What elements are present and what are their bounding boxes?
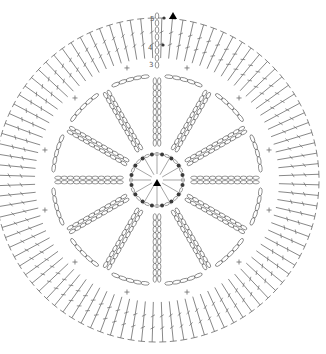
single-crochet-stitch (237, 95, 242, 100)
double-crochet-stitch (169, 301, 177, 341)
double-crochet-stitch (37, 264, 69, 294)
slip-stitch-dot (169, 200, 173, 204)
single-crochet-stitch (42, 208, 47, 213)
chain-arc (51, 134, 64, 172)
double-crochet-stitch (274, 129, 313, 144)
double-crochet-stitch (271, 119, 310, 136)
double-crochet-stitch (0, 172, 35, 179)
double-crochet-stitch (23, 83, 58, 109)
single-crochet-stitch (185, 290, 190, 295)
start-triangle-icon (153, 179, 161, 186)
double-crochet-stitch (193, 297, 208, 336)
chain-stitch (155, 34, 159, 40)
double-crochet-stitch (277, 150, 317, 160)
slip-stitch-dot (181, 183, 185, 187)
slip-stitch-dot (133, 192, 137, 196)
double-crochet-stitch (60, 279, 86, 314)
single-crochet-stitch (267, 208, 272, 213)
double-crochet-stitch (128, 300, 138, 340)
double-crochet-stitch (208, 291, 228, 329)
slip-stitch-dot (141, 156, 145, 160)
slip-stitch-dot (150, 204, 154, 208)
slip-stitch-dot (177, 192, 181, 196)
double-crochet-stitch (277, 200, 317, 210)
double-crochet-stitch (278, 191, 318, 199)
double-crochet-stitch (17, 92, 53, 116)
round-start-triangle-icon (169, 12, 177, 19)
double-crochet-stitch (268, 110, 306, 130)
double-crochet-stitch (13, 238, 50, 260)
double-crochet-stitch (177, 300, 187, 340)
double-crochet-stitch (30, 258, 63, 286)
single-crochet-stitch (124, 65, 129, 70)
single-crochet-stitch (124, 290, 129, 295)
double-crochet-stitch (274, 215, 313, 230)
double-crochet-stitch (68, 41, 92, 77)
chain-arc (165, 272, 203, 285)
chain-stitch (155, 27, 159, 33)
slip-stitch-dot (160, 152, 164, 156)
double-crochet-stitch (149, 302, 156, 342)
slip-stitch-dot (129, 173, 133, 177)
slip-stitch-dot (169, 156, 173, 160)
chain-stitch (155, 62, 159, 68)
double-crochet-stitch (159, 302, 166, 342)
single-crochet-stitch (42, 147, 47, 152)
chain-arc (51, 188, 64, 226)
chain-spoke (153, 186, 161, 282)
chain-spoke (153, 78, 161, 174)
double-crochet-stitch (177, 20, 187, 60)
slip-stitch-dot (161, 43, 164, 46)
double-crochet-stitch (276, 139, 316, 152)
double-crochet-stitch (96, 27, 113, 66)
round-5-double-crochet-stitches (0, 18, 319, 342)
double-crochet-stitch (215, 287, 237, 324)
single-crochet-stitch (185, 65, 190, 70)
double-crochet-stitch (268, 230, 306, 250)
double-crochet-stitch (0, 208, 38, 221)
double-crochet-stitch (246, 66, 278, 96)
slip-stitch-dot (162, 16, 165, 19)
double-crochet-stitch (264, 100, 301, 122)
slip-stitch-dot (181, 173, 185, 177)
chain-arc (111, 74, 149, 87)
crochet-diagram: 5 4 3 (0, 0, 326, 354)
double-crochet-stitch (256, 251, 291, 277)
single-crochet-stitch (237, 260, 242, 265)
double-crochet-stitch (0, 192, 36, 200)
double-crochet-stitch (106, 24, 121, 63)
slip-stitch-dot (150, 152, 154, 156)
double-crochet-stitch (185, 299, 198, 339)
double-crochet-stitch (168, 18, 176, 58)
double-crochet-stitch (8, 110, 46, 130)
chain-spoke (163, 176, 259, 184)
double-crochet-stitch (0, 151, 37, 161)
double-crochet-stitch (0, 200, 37, 210)
double-crochet-stitch (200, 27, 217, 66)
chain-stitch (155, 13, 159, 19)
double-crochet-stitch (138, 301, 146, 341)
chain-arc (111, 272, 149, 285)
chain-arc (215, 238, 245, 268)
double-crochet-stitch (228, 46, 254, 81)
slip-stitch-dot (133, 164, 137, 168)
double-crochet-stitch (158, 18, 165, 58)
double-crochet-stitch (127, 20, 137, 60)
chain-arc (70, 93, 100, 123)
double-crochet-stitch (192, 24, 207, 63)
chain-arc (249, 134, 262, 172)
double-crochet-stitch (107, 297, 122, 336)
double-crochet-stitch (69, 284, 93, 320)
double-crochet-stitch (279, 181, 319, 188)
chain-stitch (155, 48, 159, 54)
double-crochet-stitch (1, 216, 40, 231)
chain-spoke (55, 176, 151, 184)
double-crochet-stitch (51, 53, 79, 86)
double-crochet-stitch (261, 244, 297, 268)
chain-arc (70, 238, 100, 268)
double-crochet-stitch (148, 18, 155, 58)
chain-arc (165, 74, 203, 87)
double-crochet-stitch (279, 171, 319, 178)
row-label-5: 5 (150, 15, 154, 23)
double-crochet-stitch (18, 245, 54, 269)
